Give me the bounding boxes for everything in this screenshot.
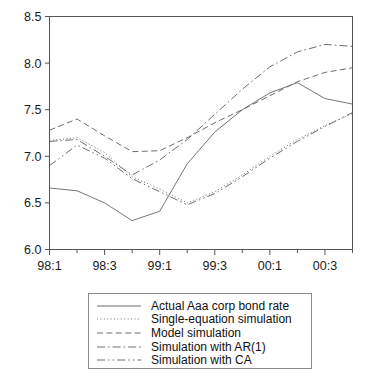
y-axis-tick-label: 7.5 — [24, 103, 41, 117]
x-axis-tick-label: 00:1 — [258, 259, 282, 273]
legend-item: Model simulation — [89, 326, 311, 340]
legend-list: Actual Aaa corp bond rateSingle-equation… — [89, 294, 311, 367]
legend-item-label: Actual Aaa corp bond rate — [151, 300, 289, 312]
series-line-3 — [50, 44, 353, 174]
x-axis-tick-label: 99:3 — [203, 259, 227, 273]
legend-item: Simulation with AR(1) — [89, 340, 311, 354]
legend-line-sample — [96, 341, 142, 353]
x-axis-tick-label: 00:3 — [313, 259, 337, 273]
y-axis-tick-label: 7.0 — [24, 150, 41, 164]
legend-line-sample — [96, 313, 142, 325]
chart-figure: 6.06.57.07.58.08.598:198:399:199:300:100… — [0, 0, 368, 379]
x-axis-tick-label: 99:1 — [148, 259, 172, 273]
plot-frame — [50, 17, 353, 250]
chart-legend: Actual Aaa corp bond rateSingle-equation… — [88, 293, 312, 369]
legend-item-label: Single-equation simulation — [151, 313, 292, 325]
y-axis-tick-label: 6.0 — [24, 243, 41, 257]
legend-item: Actual Aaa corp bond rate — [89, 299, 311, 313]
legend-item: Single-equation simulation — [89, 313, 311, 327]
legend-item-label: Model simulation — [151, 327, 241, 339]
y-axis-tick-label: 8.5 — [24, 10, 41, 24]
x-axis-tick-label: 98:1 — [37, 259, 61, 273]
x-axis-tick-label: 98:3 — [92, 259, 116, 273]
legend-item-label: Simulation with CA — [151, 354, 252, 366]
legend-item: Simulation with CA — [89, 353, 311, 367]
series-line-0 — [50, 83, 353, 221]
chart-plot-area: 6.06.57.07.58.08.598:198:399:199:300:100… — [0, 0, 368, 285]
y-axis-tick-label: 6.5 — [24, 196, 41, 210]
legend-line-sample — [96, 327, 142, 339]
line-chart-svg: 6.06.57.07.58.08.598:198:399:199:300:100… — [0, 0, 368, 285]
legend-item-label: Simulation with AR(1) — [151, 341, 266, 353]
legend-line-sample — [96, 354, 142, 366]
series-line-2 — [50, 68, 353, 152]
y-axis-tick-label: 8.0 — [24, 57, 41, 71]
legend-line-sample — [96, 300, 142, 312]
